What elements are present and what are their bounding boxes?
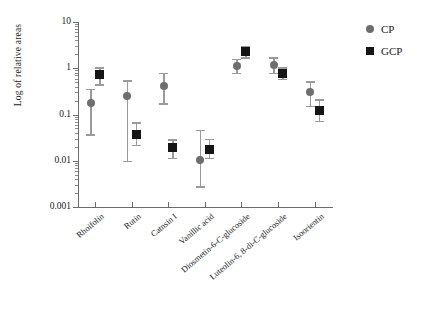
chart-legend: CPGCP [366,18,426,62]
x-category-label: Rutin [122,212,142,231]
x-category-label: Isoorientin [291,212,325,243]
legend-label: GCP [381,45,402,57]
x-category-label: Catnsin I [149,212,178,239]
legend-item-gcp[interactable]: GCP [366,40,426,62]
legend-circle-icon [366,25,374,33]
x-category-label: Luteolin-6, 8-di-C-glucoside [208,212,289,282]
legend-item-cp[interactable]: CP [366,18,426,40]
legend-square-icon [366,47,374,55]
chart-figure: 1010.10.010.001 Log of relative areas Rh… [0,0,429,335]
x-axis-category-labels: RhoifolinRutinCatnsin IVanillic acidDios… [0,0,429,335]
x-category-label: Rhoifolin [75,212,106,240]
legend-label: CP [381,23,394,35]
